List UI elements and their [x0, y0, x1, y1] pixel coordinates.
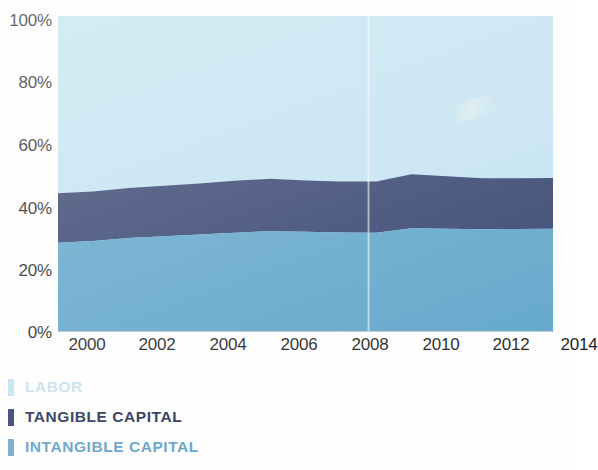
legend-swatch-intangible-capital [8, 439, 14, 456]
x-axis-tick: 2012 [492, 336, 529, 353]
y-axis-tick: 40% [0, 200, 52, 217]
x-axis-tick: 2014 [560, 336, 597, 353]
plot-area [58, 16, 553, 331]
legend-swatch-labor [8, 379, 14, 396]
x-axis-baseline [58, 331, 554, 332]
x-axis-tick: 2006 [280, 336, 317, 353]
legend-item-labor: LABOR [8, 372, 348, 402]
x-axis-tick: 2008 [351, 336, 388, 353]
x-axis-tick: 2002 [138, 336, 175, 353]
legend-label-labor: LABOR [25, 379, 83, 395]
y-axis-tick: 60% [0, 137, 52, 154]
y-axis-tick: 0% [0, 324, 52, 341]
y-axis-tick: 20% [0, 262, 52, 279]
legend-item-intangible-capital: INTANGIBLE CAPITAL [8, 432, 348, 462]
y-axis-tick: 100% [0, 12, 52, 29]
x-axis-tick: 2010 [422, 336, 459, 353]
legend-item-tangible-capital: TANGIBLE CAPITAL [8, 402, 348, 432]
legend-swatch-tangible-capital [8, 409, 14, 426]
y-axis-tick: 80% [0, 74, 52, 91]
y-axis: 100% 80% 60% 40% 20% 0% [0, 0, 52, 345]
x-axis-tick: 2000 [68, 336, 105, 353]
area-band-intangible-capital [58, 228, 553, 331]
chart-legend: LABOR TANGIBLE CAPITAL INTANGIBLE CAPITA… [8, 372, 348, 462]
legend-label-tangible-capital: TANGIBLE CAPITAL [25, 409, 182, 425]
x-axis-tick: 2004 [209, 336, 246, 353]
legend-label-intangible-capital: INTANGIBLE CAPITAL [25, 439, 199, 455]
x-axis: 2000 2002 2004 2006 2008 2010 2012 2014 [58, 336, 553, 362]
stacked-area-chart [58, 16, 553, 331]
